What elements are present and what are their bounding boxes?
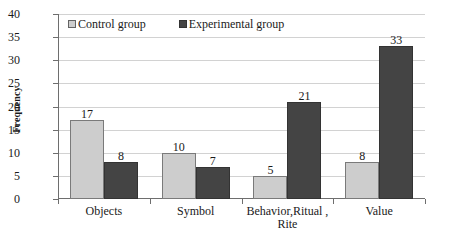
x-axis-tick — [333, 199, 334, 204]
y-tick-label: 5 — [0, 170, 20, 182]
y-tick-label: 20 — [0, 101, 20, 113]
bars-layer: 178107521833 — [58, 14, 425, 199]
x-axis-tick — [242, 199, 243, 204]
legend: Control group Experimental group — [68, 18, 284, 30]
y-tick-label: 15 — [0, 124, 20, 136]
y-tick-label: 10 — [0, 147, 20, 159]
bar-value-label: 33 — [390, 34, 402, 46]
x-axis-tick — [150, 199, 151, 204]
y-tick-label: 25 — [0, 77, 20, 89]
bar[interactable]: 33 — [379, 46, 413, 199]
legend-label-experimental: Experimental group — [189, 18, 285, 30]
bar[interactable]: 8 — [104, 162, 138, 199]
legend-item-control[interactable]: Control group — [68, 18, 146, 30]
y-tick-label: 40 — [0, 8, 20, 20]
legend-swatch-icon — [179, 20, 187, 28]
bar-value-label: 21 — [298, 90, 310, 102]
legend-swatch-icon — [68, 20, 76, 28]
bar-value-label: 8 — [359, 150, 365, 162]
bar[interactable]: 21 — [287, 102, 321, 199]
bar-value-label: 5 — [267, 164, 273, 176]
bar[interactable]: 7 — [196, 167, 230, 199]
x-axis-label: Symbol — [150, 205, 242, 218]
y-tick-label: 35 — [0, 31, 20, 43]
x-axis-tick — [58, 199, 59, 204]
bar-chart: Frequency 4035302520151050 178107521833 … — [0, 0, 450, 247]
bar[interactable]: 17 — [70, 120, 104, 199]
bar[interactable]: 8 — [345, 162, 379, 199]
bar[interactable]: 10 — [162, 153, 196, 199]
bar-value-label: 7 — [210, 155, 216, 167]
legend-label-control: Control group — [78, 18, 146, 30]
bar-value-label: 17 — [81, 108, 93, 120]
x-axis-tick — [425, 199, 426, 204]
bar-value-label: 8 — [118, 150, 124, 162]
y-tick-label: 30 — [0, 54, 20, 66]
x-axis-label: Behavior,Ritual , Rite — [242, 205, 334, 231]
x-axis-label: Objects — [58, 205, 150, 218]
bar-value-label: 10 — [173, 141, 185, 153]
legend-item-experimental[interactable]: Experimental group — [179, 18, 285, 30]
y-tick-label: 0 — [0, 193, 20, 205]
x-axis-label: Value — [333, 205, 425, 218]
bar[interactable]: 5 — [253, 176, 287, 199]
